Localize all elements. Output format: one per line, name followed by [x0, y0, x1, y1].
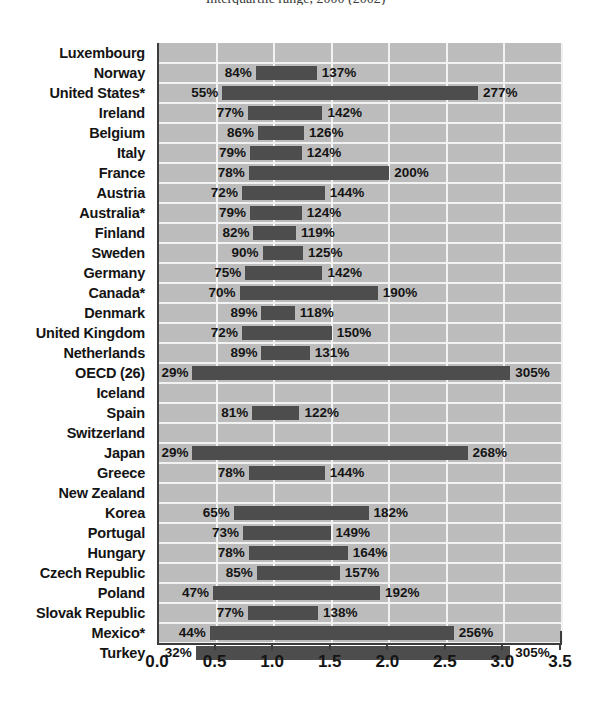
category-label-column: LuxembourgNorwayUnited States*IrelandBel… [0, 43, 152, 663]
bar-high-value-label: 164% [353, 543, 388, 563]
bar-low-value-label: 70% [176, 283, 236, 303]
bar-high-value-label: 277% [483, 83, 518, 103]
x-axis-tick-label: 3.0 [472, 652, 532, 672]
bar-high-value-label: 144% [330, 183, 365, 203]
category-label: Denmark [0, 303, 152, 323]
bar-row [159, 423, 562, 443]
category-label: France [0, 163, 152, 183]
x-axis-tick-label: 2.0 [357, 652, 417, 672]
category-label: Czech Republic [0, 563, 152, 583]
bar-row: 78%164% [159, 543, 562, 563]
range-bar [234, 506, 369, 520]
bar-high-value-label: 124% [307, 143, 342, 163]
range-bar [256, 66, 317, 80]
category-label: Mexico* [0, 623, 152, 643]
bar-low-value-label: 75% [181, 263, 241, 283]
category-label: Korea [0, 503, 152, 523]
bar-row: 86%126% [159, 123, 562, 143]
bar-high-value-label: 190% [383, 283, 418, 303]
range-bar [249, 466, 325, 480]
category-label: Italy [0, 143, 152, 163]
x-axis-tick [271, 643, 273, 650]
x-axis-tick [501, 643, 503, 650]
bar-row: 78%144% [159, 463, 562, 483]
bar-low-value-label: 82% [189, 223, 249, 243]
range-bar [240, 286, 378, 300]
bar-row: 47%192% [159, 583, 562, 603]
bar-high-value-label: 118% [300, 303, 334, 323]
bar-row [159, 383, 562, 403]
range-bar [242, 326, 332, 340]
bar-low-value-label: 84% [192, 63, 252, 83]
x-axis-tick [386, 643, 388, 650]
category-label: Portugal [0, 523, 152, 543]
bar-high-value-label: 124% [307, 203, 342, 223]
range-bar [192, 446, 467, 460]
category-label: Poland [0, 583, 152, 603]
bar-high-value-label: 268% [473, 443, 508, 463]
range-bar [257, 566, 340, 580]
bar-high-value-label: 149% [336, 523, 371, 543]
range-bar [261, 346, 309, 360]
bar-low-value-label: 72% [178, 183, 238, 203]
bar-row: 89%131% [159, 343, 562, 363]
bar-low-value-label: 65% [170, 503, 230, 523]
category-label: Sweden [0, 243, 152, 263]
x-axis-tick-label: 1.5 [300, 652, 360, 672]
bar-low-value-label: 90% [199, 243, 259, 263]
bar-high-value-label: 138% [323, 603, 358, 623]
bar-row: 70%190% [159, 283, 562, 303]
category-label: Luxembourg [0, 43, 152, 63]
x-axis-tick [214, 643, 216, 650]
bar-row: 73%149% [159, 523, 562, 543]
bar-low-value-label: 47% [149, 583, 209, 603]
category-label: Canada* [0, 283, 152, 303]
category-label: Netherlands [0, 343, 152, 363]
range-bar [245, 266, 322, 280]
bar-low-value-label: 44% [146, 623, 206, 643]
bar-low-value-label: 89% [197, 303, 257, 323]
category-label: Austria [0, 183, 152, 203]
x-axis-tick-label: 0.5 [185, 652, 245, 672]
category-label: Norway [0, 63, 152, 83]
category-label: Ireland [0, 103, 152, 123]
bar-low-value-label: 77% [184, 603, 244, 623]
bar-row [159, 43, 562, 63]
bar-row: 90%125% [159, 243, 562, 263]
bar-row: 44%256% [159, 623, 562, 643]
bar-row: 77%142% [159, 103, 562, 123]
bar-row: 81%122% [159, 403, 562, 423]
category-label: United States* [0, 83, 152, 103]
bar-high-value-label: 119% [301, 223, 335, 243]
bar-high-value-label: 137% [322, 63, 357, 83]
bar-high-value-label: 182% [374, 503, 409, 523]
bar-row: 82%119% [159, 223, 562, 243]
bar-row: 89%118% [159, 303, 562, 323]
bar-low-value-label: 29% [128, 443, 188, 463]
bar-row: 78%200% [159, 163, 562, 183]
bar-low-value-label: 73% [179, 523, 239, 543]
category-label: Australia* [0, 203, 152, 223]
range-bar [249, 166, 389, 180]
range-bar [253, 226, 296, 240]
bar-low-value-label: 77% [184, 103, 244, 123]
bar-high-value-label: 122% [304, 403, 339, 423]
bar-high-value-label: 256% [459, 623, 494, 643]
category-label: Hungary [0, 543, 152, 563]
bar-high-value-label: 192% [385, 583, 420, 603]
range-bar [261, 306, 294, 320]
category-label: Belgium [0, 123, 152, 143]
bar-row: 79%124% [159, 143, 562, 163]
category-label: Spain [0, 403, 152, 423]
range-bar [243, 526, 331, 540]
plot-area: 84%137%55%277%77%142%86%126%79%124%78%20… [157, 43, 562, 643]
bar-row: 55%277% [159, 83, 562, 103]
bar-high-value-label: 126% [309, 123, 344, 143]
category-label: United Kingdom [0, 323, 152, 343]
category-label: Iceland [0, 383, 152, 403]
range-bar [250, 206, 302, 220]
category-label: Finland [0, 223, 152, 243]
range-bar [250, 146, 302, 160]
range-bar [263, 246, 303, 260]
bar-row: 29%305% [159, 363, 562, 383]
